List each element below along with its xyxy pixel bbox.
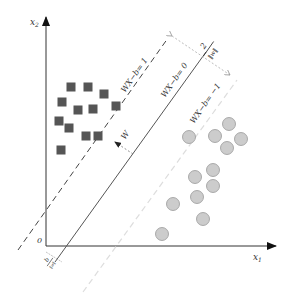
svg-text:‖w‖: ‖w‖	[206, 47, 219, 61]
circle-point	[156, 228, 169, 241]
circle-point	[223, 118, 236, 131]
square-point	[74, 106, 83, 115]
circle-point	[189, 171, 202, 184]
normal-vector-label: W	[119, 129, 132, 142]
positive-margin-line	[18, 38, 168, 250]
square-point	[65, 124, 74, 133]
normal-vector-arrow	[115, 142, 133, 154]
square-point	[84, 83, 93, 92]
circle-point	[183, 131, 196, 144]
x-axis-label: x1	[253, 252, 262, 263]
circle-point	[207, 164, 220, 177]
circle-point	[191, 191, 204, 204]
square-point	[67, 83, 76, 92]
square-point	[100, 90, 109, 99]
hyperplane-label: WX−b= 0	[159, 61, 189, 99]
circle-point	[221, 142, 234, 155]
circle-point	[235, 133, 248, 146]
positive-margin-label: WX−b= 1	[119, 56, 149, 94]
margin-width-label: 2 ‖w‖	[195, 36, 222, 62]
square-point	[94, 132, 103, 141]
circle-point	[209, 130, 222, 143]
square-point	[57, 146, 66, 155]
square-point	[58, 98, 67, 107]
square-point	[112, 102, 121, 111]
negative-margin-label: WX−b= −1	[188, 82, 222, 125]
square-point	[55, 117, 64, 126]
square-point	[82, 132, 91, 141]
origin-label: 0	[37, 236, 42, 245]
class-b-circles	[156, 118, 248, 241]
svg-text:b: b	[42, 256, 50, 263]
y-axis-label: x2	[30, 17, 39, 28]
svm-diagram: x2 x1 0 WX−b= 1 WX−b= 0 WX−b= −1 2 ‖w‖ W…	[0, 0, 288, 304]
circle-point	[197, 213, 210, 226]
square-point	[89, 105, 98, 114]
circle-point	[207, 180, 220, 193]
circle-point	[167, 198, 180, 211]
